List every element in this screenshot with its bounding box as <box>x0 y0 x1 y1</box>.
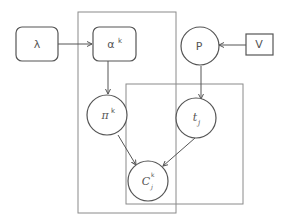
graphical-model-diagram: λ α k P V π k t j C k j <box>0 0 288 223</box>
node-C: C k j <box>128 161 168 201</box>
node-pi-label: π <box>100 109 109 122</box>
node-C-sup: k <box>151 171 155 178</box>
node-V-label: V <box>255 38 263 51</box>
node-lambda: λ <box>16 27 58 61</box>
node-pi: π k <box>87 95 127 135</box>
edge-pi-C <box>118 135 136 165</box>
edge-t-C <box>163 138 195 166</box>
node-V: V <box>246 34 273 55</box>
node-P: P <box>181 27 219 65</box>
node-C-label: C <box>142 175 151 188</box>
node-alpha-label: α <box>107 38 114 51</box>
node-alpha: α k <box>93 27 136 61</box>
node-t: t j <box>176 98 216 138</box>
node-lambda-label: λ <box>34 38 41 51</box>
node-P-label: P <box>196 40 203 53</box>
